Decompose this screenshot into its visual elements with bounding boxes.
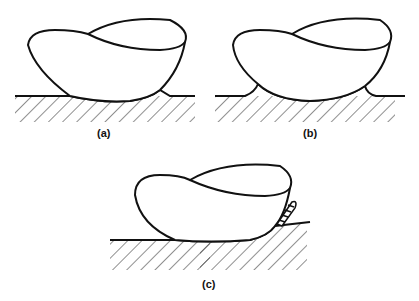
droplet-a (28, 19, 186, 101)
panel-label-a: (a) (97, 127, 110, 139)
panel-c (110, 165, 310, 270)
panel-a (15, 19, 195, 122)
diagram-canvas (0, 0, 419, 301)
substrate-hatch-c (110, 240, 210, 270)
panel-label-b: (b) (303, 127, 317, 139)
droplet-b (233, 19, 391, 101)
panel-b (215, 19, 405, 122)
droplet-c (135, 165, 291, 242)
panel-label-c: (c) (202, 278, 215, 290)
